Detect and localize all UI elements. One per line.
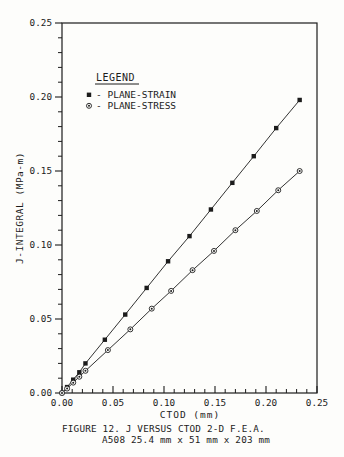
legend-title: LEGEND [96, 72, 135, 83]
plane-stress-marker-dot [170, 290, 172, 292]
plane-stress-marker-dot [72, 382, 74, 384]
plane-strain-marker [83, 361, 87, 365]
plane-strain-marker [209, 207, 213, 211]
plane-stress-marker-dot [78, 376, 80, 378]
x-tick-label: 0.25 [306, 397, 328, 408]
plane-stress-marker-dot [256, 210, 258, 212]
legend-marker-plane-stress-dot [88, 105, 90, 107]
plane-stress-marker-dot [299, 170, 301, 172]
legend-entry-label: - PLANE-STRESS [96, 100, 176, 111]
x-tick-label: 0.15 [204, 397, 226, 408]
y-tick-label: 0.20 [30, 91, 52, 102]
figure-caption-line2: A508 25.4 mm x 51 mm x 203 mm [102, 434, 270, 445]
x-tick-label: 0.00 [51, 397, 73, 408]
plane-strain-marker [252, 154, 256, 158]
plane-strain-marker [103, 338, 107, 342]
y-tick-label: 0.25 [30, 17, 52, 28]
plane-stress-marker-dot [66, 388, 68, 390]
y-tick-label: 0.10 [30, 239, 52, 250]
plane-stress-marker-dot [277, 189, 279, 191]
y-axis-title: J-INTEGRAL (MPa-m) [14, 152, 25, 264]
legend-marker-plane-strain [87, 93, 91, 97]
plane-stress-marker-dot [213, 250, 215, 252]
plane-stress-marker-dot [107, 349, 109, 351]
plane-stress-marker-dot [61, 392, 63, 394]
y-tick-label: 0.00 [30, 387, 52, 398]
plane-stress-marker-dot [234, 229, 236, 231]
plane-stress-marker-dot [84, 370, 86, 372]
x-tick-label: 0.05 [102, 397, 124, 408]
y-tick-label: 0.15 [30, 165, 52, 176]
figure-page: 0.000.050.100.150.200.250.000.050.100.15… [0, 0, 344, 457]
x-axis-title: CTOD (mm) [160, 409, 220, 420]
plane-strain-marker [166, 259, 170, 263]
figure-caption-line1: FIGURE 12. J VERSUS CTOD 2-D F.E.A. [62, 423, 265, 434]
x-tick-label: 0.10 [153, 397, 175, 408]
plane-stress-marker-dot [192, 269, 194, 271]
plane-stress-marker-dot [151, 308, 153, 310]
plane-strain-marker [187, 234, 191, 238]
plane-stress-line [62, 171, 300, 393]
plane-strain-marker [123, 312, 127, 316]
plane-strain-line [62, 100, 300, 393]
legend-entry-label: - PLANE-STRAIN [96, 89, 176, 100]
plane-strain-marker [230, 181, 234, 185]
y-tick-label: 0.05 [30, 313, 52, 324]
plane-strain-marker [274, 126, 278, 130]
x-tick-label: 0.20 [255, 397, 277, 408]
plane-strain-marker [144, 286, 148, 290]
plane-strain-marker [297, 98, 301, 102]
plane-stress-marker-dot [129, 328, 131, 330]
j-ctod-chart: 0.000.050.100.150.200.250.000.050.100.15… [0, 0, 344, 457]
